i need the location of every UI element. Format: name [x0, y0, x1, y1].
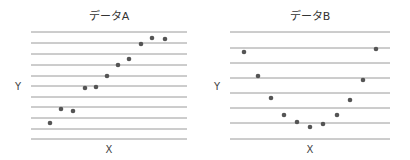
x-axis-label: X — [307, 144, 314, 155]
data-point — [48, 121, 53, 126]
data-point — [83, 86, 88, 91]
data-point — [269, 96, 274, 101]
data-point — [59, 107, 64, 112]
data-point — [105, 74, 110, 79]
data-point — [71, 109, 76, 114]
y-axis-label: Y — [14, 81, 22, 92]
chart-title: データA — [89, 9, 130, 23]
data-point — [163, 37, 168, 42]
chart-canvas: データAYXデータBYX — [0, 0, 410, 160]
data-point — [321, 122, 326, 127]
data-point — [139, 42, 144, 47]
scatter-plot-1: データAYX — [14, 9, 187, 155]
data-point — [348, 98, 353, 103]
x-axis-label: X — [106, 144, 113, 155]
data-point — [94, 85, 99, 90]
data-point — [335, 113, 340, 118]
chart-title: データB — [290, 9, 331, 23]
data-point — [361, 78, 366, 83]
data-point — [242, 50, 247, 55]
data-point — [150, 36, 155, 41]
scatter-plot-2: データBYX — [213, 9, 390, 155]
data-point — [116, 63, 121, 68]
data-point — [256, 74, 261, 79]
data-point — [295, 120, 300, 125]
y-axis-label: Y — [213, 81, 221, 92]
data-point — [308, 125, 313, 130]
data-point — [127, 57, 132, 62]
data-point — [374, 47, 379, 52]
data-point — [282, 113, 287, 118]
